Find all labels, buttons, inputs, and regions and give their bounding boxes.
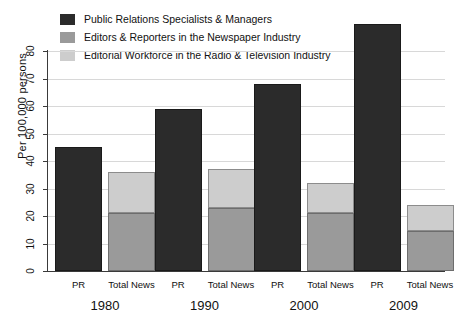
y-axis-tick-label: 10 bbox=[26, 234, 36, 254]
x-sub-label-total-news-2000: Total News bbox=[307, 279, 353, 290]
bar-pr-2000 bbox=[254, 84, 301, 271]
plot-area: 01020304050607080 bbox=[47, 20, 445, 272]
y-axis-tick-label: 30 bbox=[26, 179, 36, 199]
y-axis-tick bbox=[43, 271, 48, 272]
y-axis-tick-label: 50 bbox=[26, 124, 36, 144]
x-group-label-2000: 2000 bbox=[290, 299, 319, 313]
x-sub-label-pr-2009: PR bbox=[370, 279, 383, 290]
y-axis-tick bbox=[43, 244, 48, 245]
bar-segment-public-relations bbox=[155, 109, 202, 271]
bar-segment-public-relations bbox=[55, 147, 102, 271]
bar-segment-radio-television bbox=[407, 205, 454, 231]
y-axis-tick bbox=[43, 134, 48, 135]
bar-pr-1980 bbox=[55, 147, 102, 271]
bar-segment-public-relations bbox=[354, 24, 401, 272]
y-axis-tick-label: 80 bbox=[26, 41, 36, 61]
y-axis-tick-label: 70 bbox=[26, 69, 36, 89]
x-group-label-1980: 1980 bbox=[91, 299, 120, 313]
x-group-label-2009: 2009 bbox=[389, 299, 418, 313]
x-axis-line bbox=[47, 271, 445, 272]
y-axis-tick bbox=[43, 161, 48, 162]
bar-total-news-2009 bbox=[407, 205, 454, 271]
x-sub-label-pr-1980: PR bbox=[72, 279, 85, 290]
bar-segment-newspaper bbox=[307, 213, 354, 271]
y-axis-tick-label: 60 bbox=[26, 96, 36, 116]
bar-segment-newspaper bbox=[407, 231, 454, 271]
y-axis-tick-label: 0 bbox=[26, 261, 36, 281]
x-sub-label-total-news-1990: Total News bbox=[208, 279, 254, 290]
bar-total-news-1990 bbox=[208, 169, 255, 271]
bar-total-news-2000 bbox=[307, 183, 354, 271]
y-axis-tick bbox=[43, 79, 48, 80]
bar-segment-newspaper bbox=[208, 208, 255, 271]
x-sub-label-total-news-1980: Total News bbox=[108, 279, 154, 290]
x-group-label-1990: 1990 bbox=[190, 299, 219, 313]
y-axis-tick bbox=[43, 51, 48, 52]
x-sub-label-total-news-2009: Total News bbox=[407, 279, 453, 290]
bar-segment-newspaper bbox=[108, 213, 155, 271]
bar-total-news-1980 bbox=[108, 172, 155, 271]
bar-segment-public-relations bbox=[254, 84, 301, 271]
y-axis-tick bbox=[43, 106, 48, 107]
bar-segment-radio-television bbox=[307, 183, 354, 213]
bar-segment-radio-television bbox=[108, 172, 155, 213]
bar-pr-1990 bbox=[155, 109, 202, 271]
y-axis-tick bbox=[43, 189, 48, 190]
x-sub-label-pr-2000: PR bbox=[271, 279, 284, 290]
x-sub-label-pr-1990: PR bbox=[171, 279, 184, 290]
bar-segment-radio-television bbox=[208, 169, 255, 208]
y-axis-tick bbox=[43, 216, 48, 217]
bar-pr-2009 bbox=[354, 24, 401, 272]
y-axis-tick-label: 20 bbox=[26, 206, 36, 226]
y-axis-tick-label: 40 bbox=[26, 151, 36, 171]
